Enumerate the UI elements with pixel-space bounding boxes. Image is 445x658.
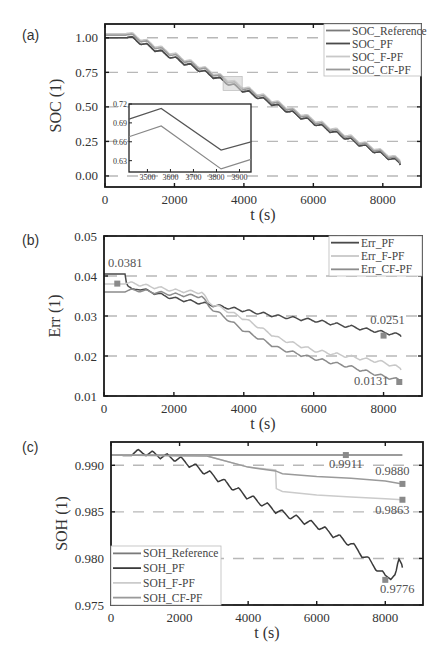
annotation-marker	[381, 333, 387, 339]
inset-xtick-label: 3600	[162, 173, 178, 182]
y-tick-label: 0.01	[74, 389, 97, 404]
figure: (a)0.630.660.690.72350036003700380039000…	[0, 0, 445, 658]
y-tick-label: 0.50	[75, 99, 98, 114]
legend-entry: Err_F-PF	[361, 250, 404, 262]
panel-label: (b)	[22, 232, 39, 248]
chart-soh: (c)0.99110.98800.98630.97760200040006000…	[22, 439, 423, 642]
y-tick-label: 0.985	[75, 504, 104, 519]
legend-entry: Err_PF	[361, 237, 394, 249]
x-tick-label: 4000	[231, 192, 257, 207]
x-tick-label: 2000	[167, 610, 193, 625]
series-err-cf-pf	[104, 289, 401, 382]
inset-xtick-label: 3700	[185, 173, 201, 182]
y-tick-label: 1.00	[75, 30, 98, 45]
inset-ytick-label: 0.66	[113, 138, 127, 147]
annotation-marker	[399, 481, 405, 487]
x-tick-label: 8000	[371, 401, 397, 416]
legend-entry: SOC_F-PF	[352, 51, 403, 63]
legend-entry: SOH_PF	[143, 562, 185, 574]
x-tick-label: 6000	[300, 192, 326, 207]
y-tick-label: 0.75	[75, 65, 98, 80]
x-axis-label: t (s)	[254, 624, 279, 642]
x-axis-label: t (s)	[250, 206, 275, 224]
annotation-label: 0.0381	[108, 256, 142, 270]
inset-xtick-label: 3500	[139, 173, 155, 182]
x-tick-label: 0	[101, 401, 108, 416]
y-tick-label: 0.25	[75, 134, 98, 149]
inset-xtick-label: 3900	[231, 173, 247, 182]
inset-ytick-label: 0.63	[113, 157, 127, 166]
zoom-region	[223, 76, 242, 90]
y-tick-label: 0.975	[75, 598, 104, 613]
y-tick-label: 0.02	[74, 349, 97, 364]
chart-soc: (a)0.630.660.690.72350036003700380039000…	[22, 24, 427, 224]
x-axis-label: t (s)	[250, 415, 275, 433]
y-axis-label: SOC (1)	[47, 79, 65, 133]
x-tick-label: 2000	[161, 192, 187, 207]
inset-frame	[129, 104, 251, 172]
legend-entry: SOC_PF	[352, 38, 393, 50]
panel-label: (a)	[22, 27, 39, 43]
annotation-label: 0.9863	[375, 503, 409, 517]
legend-entry: SOH_Reference	[143, 547, 218, 559]
y-tick-label: 0.03	[74, 309, 97, 324]
annotation-marker	[114, 281, 120, 287]
y-axis-label: SOH (1)	[53, 496, 71, 551]
annotation-marker	[396, 379, 402, 385]
y-axis-label: Err (1)	[46, 294, 64, 337]
legend-entry: SOH_CF-PF	[143, 592, 202, 604]
x-tick-label: 0	[102, 192, 109, 207]
y-tick-label: 0.05	[74, 229, 97, 244]
y-tick-label: 0.00	[75, 168, 98, 183]
y-tick-label: 0.980	[75, 551, 104, 566]
inset-xtick-label: 3800	[208, 173, 224, 182]
x-tick-label: 4000	[235, 610, 261, 625]
annotation-label: 0.0251	[370, 313, 404, 327]
series-err-f-pf	[104, 282, 401, 370]
legend-entry: SOH_F-PF	[143, 577, 195, 589]
chart-err: (b)0.03810.02510.0131020004000600080000.…	[22, 229, 422, 434]
annotation-label: 0.0131	[354, 374, 388, 388]
x-tick-label: 4000	[231, 401, 257, 416]
series-err-pf	[104, 274, 401, 337]
x-tick-label: 0	[108, 610, 115, 625]
x-tick-label: 8000	[372, 610, 398, 625]
x-tick-label: 6000	[304, 610, 330, 625]
x-tick-label: 8000	[370, 192, 396, 207]
legend-entry: SOC_Reference	[352, 25, 427, 37]
annotation-label: 0.9776	[380, 582, 414, 596]
legend-entry: SOC_CF-PF	[352, 64, 411, 76]
annotation-label: 0.9911	[329, 457, 363, 471]
panel-label: (c)	[22, 439, 38, 455]
inset-ytick-label: 0.69	[113, 119, 127, 128]
inset-ytick-label: 0.72	[113, 100, 127, 109]
legend-entry: Err_CF-PF	[361, 263, 412, 275]
y-tick-label: 0.990	[75, 458, 104, 473]
y-tick-label: 0.04	[74, 269, 97, 284]
annotation-label: 0.9880	[375, 464, 409, 478]
x-tick-label: 6000	[301, 401, 327, 416]
x-tick-label: 2000	[161, 401, 187, 416]
